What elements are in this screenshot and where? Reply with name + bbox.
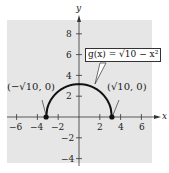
right-point-label: (√10, 0) bbox=[107, 82, 147, 92]
x-axis-label: x bbox=[162, 112, 167, 121]
y-tick-8: 8 bbox=[66, 30, 72, 39]
y-tick-6: 6 bbox=[66, 51, 72, 60]
y-tick-neg4: −4 bbox=[61, 155, 74, 164]
y-tick-neg2: −2 bbox=[61, 134, 74, 143]
function-callout: g(x) = √10 − x² bbox=[85, 48, 161, 62]
right-endpoint bbox=[109, 114, 114, 119]
left-endpoint bbox=[44, 114, 49, 119]
left-point-label: (−√10, 0) bbox=[7, 82, 55, 92]
y-tick-4: 4 bbox=[66, 72, 72, 81]
x-tick-2: 2 bbox=[97, 123, 103, 132]
x-tick-4: 4 bbox=[118, 123, 124, 132]
x-tick-6: 6 bbox=[139, 123, 145, 132]
x-tick-neg4: −4 bbox=[30, 123, 43, 132]
x-tick-neg2: −2 bbox=[51, 123, 64, 132]
y-axis-label: y bbox=[76, 4, 81, 13]
y-axis-arrow-icon bbox=[77, 15, 81, 22]
x-axis-arrow-icon bbox=[154, 115, 161, 119]
y-tick-2: 2 bbox=[66, 92, 72, 101]
x-tick-neg6: −6 bbox=[9, 123, 22, 132]
